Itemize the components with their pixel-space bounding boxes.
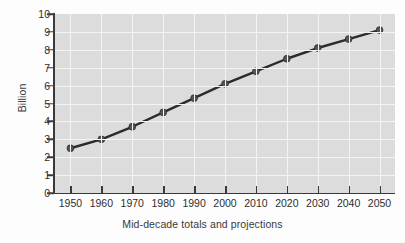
x-axis-tick-mark — [194, 186, 196, 193]
x-axis-tick-mark — [318, 186, 320, 193]
x-axis-tick-mark — [70, 186, 72, 193]
x-axis-tick-label: 2010 — [244, 197, 267, 209]
y-axis-tick-mark — [47, 31, 54, 33]
plot-area — [55, 14, 395, 193]
gridline-vertical — [70, 14, 71, 193]
y-axis-tick-mark — [47, 49, 54, 51]
x-axis-tick-mark — [225, 186, 227, 193]
x-axis-tick-mark — [132, 186, 134, 193]
x-axis-title: Mid-decade totals and projections — [0, 218, 405, 230]
x-axis-tick-label: 1980 — [151, 197, 174, 209]
x-axis-tick-label: 2030 — [306, 197, 329, 209]
population-line-chart: Billion 012345678910 1950196019701980199… — [0, 0, 405, 243]
x-axis-tick-mark — [163, 186, 165, 193]
y-axis-tick-mark — [47, 67, 54, 69]
y-axis-tick-mark — [47, 192, 54, 194]
gridline-vertical — [318, 14, 319, 193]
x-axis-tick-label: 1970 — [121, 197, 144, 209]
y-axis-tick-mark — [47, 103, 54, 105]
x-axis-tick-label: 2040 — [337, 197, 360, 209]
gridline-vertical — [225, 14, 226, 193]
gridline-vertical — [256, 14, 257, 193]
x-axis-tick-label: 1950 — [59, 197, 82, 209]
y-axis-tick-mark — [47, 156, 54, 158]
gridline-vertical — [287, 14, 288, 193]
y-axis-tick-mark — [47, 139, 54, 141]
gridline-vertical — [349, 14, 350, 193]
x-axis-tick-mark — [349, 186, 351, 193]
gridline-vertical — [380, 14, 381, 193]
x-axis-tick-labels: 1950196019701980199020002010202020302040… — [0, 197, 405, 213]
gridline-vertical — [132, 14, 133, 193]
x-axis-tick-label: 2020 — [275, 197, 298, 209]
x-axis-tick-mark — [101, 186, 103, 193]
y-axis-tick-mark — [47, 13, 54, 15]
y-axis-title-text: Billion — [16, 84, 28, 113]
gridline-vertical — [101, 14, 102, 193]
x-axis-tick-mark — [380, 186, 382, 193]
x-axis-tick-label: 1960 — [90, 197, 113, 209]
x-axis-tick-mark — [256, 186, 258, 193]
x-axis-tick-label: 1990 — [182, 197, 205, 209]
gridline-vertical — [194, 14, 195, 193]
y-axis-tick-mark — [47, 85, 54, 87]
gridline-vertical — [163, 14, 164, 193]
y-axis-tick-mark — [47, 121, 54, 123]
x-axis-tick-label: 2000 — [213, 197, 236, 209]
x-axis-tick-mark — [287, 186, 289, 193]
y-axis-title: Billion — [13, 0, 31, 196]
x-axis-tick-label: 2050 — [368, 197, 391, 209]
y-axis-tick-mark — [47, 174, 54, 176]
